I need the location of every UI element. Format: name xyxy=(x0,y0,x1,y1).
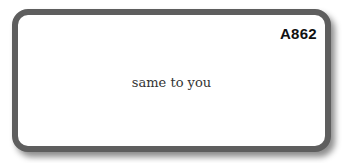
card-code: A862 xyxy=(280,25,317,42)
card-phrase: same to you xyxy=(18,75,325,90)
flashcard: A862 same to you xyxy=(12,9,331,152)
